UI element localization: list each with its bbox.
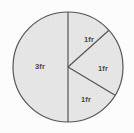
pie-fraction-figure: 3fr 1fr 1fr 1fr [0,0,134,133]
sector-label-1fr-bottom: 1fr [81,95,91,104]
sector-label-1fr-right: 1fr [98,64,108,73]
sector-label-3fr: 3fr [35,62,45,71]
pie-chart-svg: 3fr 1fr 1fr 1fr [0,0,134,133]
sector-label-1fr-top: 1fr [84,35,94,44]
